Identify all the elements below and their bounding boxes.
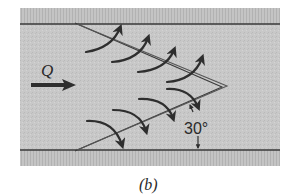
weir-diagram: Q 30° (b) xyxy=(0,0,297,196)
flow-label: Q xyxy=(41,61,53,80)
angle-label: 30° xyxy=(184,120,208,137)
top-wall-strip xyxy=(20,8,280,24)
bottom-wall-strip xyxy=(20,150,280,166)
figure-caption: (b) xyxy=(139,176,158,194)
